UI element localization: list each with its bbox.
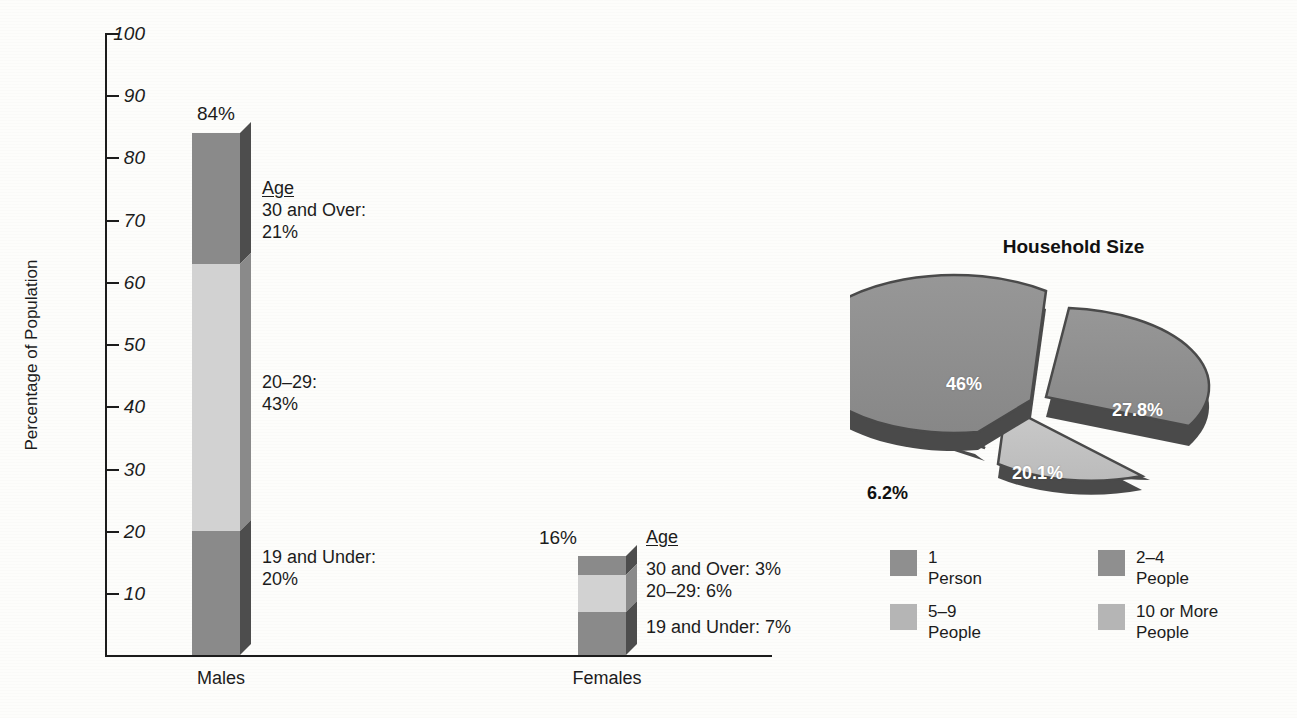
males-annotation-heading-text: Age: [262, 178, 294, 198]
legend-label-10-or-more-people: 10 or More People: [1136, 602, 1218, 643]
bar-males-total-label: 84%: [197, 103, 235, 125]
y-tick-label-30: 30: [99, 459, 145, 481]
bar-females: [578, 556, 637, 655]
pie-slice-1-person: [850, 275, 1046, 451]
x-axis-label-males: Males: [197, 668, 245, 689]
bar-females-segment-30-and-over-front: [578, 556, 626, 575]
bar-males-segment-19-and-under-front: [192, 531, 240, 655]
stacked-bar-chart: Percentage of Population 100 90 80 70 60…: [0, 0, 800, 718]
bar-females-total-label: 16%: [539, 527, 577, 549]
y-tick-label-10: 10: [99, 583, 145, 605]
bar-males-segment-19-and-under-side: [240, 520, 251, 655]
males-annotation-heading: Age: [262, 178, 294, 200]
bar-males: [192, 133, 251, 655]
bar-females-segment-19-and-under-side: [626, 601, 637, 655]
pie-label-20-1-percent: 20.1%: [1012, 463, 1063, 484]
pie-label-27-8-percent: 27.8%: [1112, 400, 1163, 421]
pie-chart-title: Household Size: [850, 236, 1297, 258]
x-axis-label-females: Females: [572, 668, 641, 689]
pie-chart-graphic: [850, 268, 1297, 528]
bar-males-segment-20-29-side: [240, 253, 251, 531]
males-annotation-over30-value: 21%: [262, 222, 298, 244]
legend-item-1-person[interactable]: 1 Person: [890, 548, 982, 589]
x-axis-line: [105, 655, 772, 657]
males-annotation-under19-value: 20%: [262, 569, 298, 591]
bar-females-segment-20-29-front: [578, 575, 626, 612]
household-size-pie-chart: Household Size: [850, 0, 1297, 718]
legend-swatch-1-person: [890, 550, 917, 576]
y-tick-label-80: 80: [99, 147, 145, 169]
y-tick-label-40: 40: [99, 396, 145, 418]
pie-label-46-percent: 46%: [946, 374, 982, 395]
females-annotation-heading-text: Age: [646, 527, 678, 547]
legend-swatch-2-4-people: [1098, 550, 1125, 576]
bar-females-segment-19-and-under-front: [578, 612, 626, 655]
legend-swatch-10-or-more-people: [1098, 604, 1125, 630]
females-annotation-over30: 30 and Over: 3%: [646, 559, 781, 581]
pie-label-6-2-percent: 6.2%: [867, 483, 908, 504]
females-annotation-under19: 19 and Under: 7%: [646, 617, 791, 639]
males-annotation-under19-label: 19 and Under:: [262, 547, 376, 569]
y-tick-label-90: 90: [99, 85, 145, 107]
legend-item-10-or-more-people[interactable]: 10 or More People: [1098, 602, 1218, 643]
females-annotation-heading: Age: [646, 527, 678, 549]
y-tick-label-100: 100: [99, 23, 145, 45]
y-tick-label-20: 20: [99, 521, 145, 543]
legend-swatch-5-9-people: [890, 604, 917, 630]
y-tick-label-70: 70: [99, 210, 145, 232]
legend-item-5-9-people[interactable]: 5–9 People: [890, 602, 981, 643]
females-annotation-20-29: 20–29: 6%: [646, 581, 732, 603]
males-annotation-20-29-label: 20–29:: [262, 372, 317, 394]
y-tick-label-60: 60: [99, 272, 145, 294]
bar-males-segment-20-29-front: [192, 264, 240, 531]
bar-males-segment-30-and-over-front: [192, 133, 240, 264]
legend-label-1-person: 1 Person: [928, 548, 982, 589]
bar-males-segment-30-and-over-side: [240, 122, 251, 264]
figure-root: Percentage of Population 100 90 80 70 60…: [0, 0, 1297, 718]
y-axis-title: Percentage of Population: [22, 205, 42, 505]
males-annotation-20-29-value: 43%: [262, 394, 298, 416]
legend-label-2-4-people: 2–4 People: [1136, 548, 1189, 589]
legend-label-5-9-people: 5–9 People: [928, 602, 981, 643]
males-annotation-over30-label: 30 and Over:: [262, 200, 366, 222]
legend-item-2-4-people[interactable]: 2–4 People: [1098, 548, 1189, 589]
pie-slice-2-4-people: [1046, 308, 1209, 446]
y-tick-label-50: 50: [99, 334, 145, 356]
